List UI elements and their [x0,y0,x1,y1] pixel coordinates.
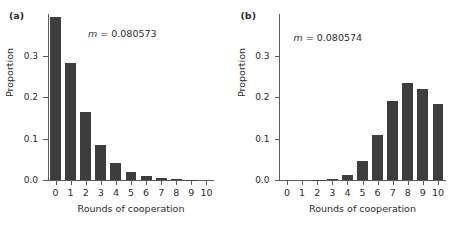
x-tick-label: 1 [299,187,305,198]
y-tick [275,180,280,181]
y-tick-label: 0.3 [24,51,38,61]
panel-a-plot-area: 0.00.10.20.3 012345678910 [48,14,214,180]
y-tick [275,139,280,140]
x-tick [71,180,72,185]
panel-b-xlabel: Rounds of cooperation [280,203,446,214]
bar-6 [372,135,383,180]
x-tick-label: 9 [420,187,426,198]
x-tick-label: 7 [390,187,396,198]
x-tick [131,180,132,185]
x-tick [363,180,364,185]
bar-5 [357,161,368,180]
x-tick [146,180,147,185]
x-tick-label: 0 [53,187,59,198]
x-tick-label: 7 [158,187,164,198]
y-tick-label: 0.1 [255,134,269,144]
panel-a: (a) m = 0.080573 Proportion 0.00.10.20.3… [0,0,232,239]
x-tick-label: 5 [359,187,365,198]
bar-3 [95,145,106,180]
x-tick [191,180,192,185]
x-tick [317,180,318,185]
x-tick-label: 6 [143,187,149,198]
x-tick-label: 3 [98,187,104,198]
panel-a-bars [48,14,214,180]
x-tick-label: 0 [284,187,290,198]
bar-10 [433,104,444,180]
panel-a-xlabel: Rounds of cooperation [48,203,214,214]
panel-b-ylabel: Proportion [236,48,247,97]
y-tick [43,139,48,140]
x-tick [423,180,424,185]
x-tick [393,180,394,185]
x-tick [347,180,348,185]
panel-b-plot-area: 0.00.10.20.3 012345678910 [280,14,446,180]
y-tick-label: 0.3 [255,51,269,61]
y-tick-label: 0.0 [255,175,269,185]
y-tick-label: 0.0 [24,175,38,185]
bar-5 [126,172,137,180]
x-tick-label: 8 [405,187,411,198]
x-tick-label: 8 [173,187,179,198]
bar-8 [402,83,413,180]
x-tick [56,180,57,185]
x-tick [302,180,303,185]
panel-b: (b) m = 0.080574 Proportion 0.00.10.20.3… [232,0,463,239]
panel-a-ylabel: Proportion [4,48,15,97]
panel-b-bars [280,14,446,180]
x-tick-label: 10 [432,187,444,198]
x-tick [161,180,162,185]
x-tick [287,180,288,185]
y-tick-label: 0.2 [255,92,269,102]
y-tick [43,97,48,98]
y-tick-label: 0.2 [24,92,38,102]
x-tick [378,180,379,185]
bar-1 [65,63,76,180]
panel-b-label: (b) [241,10,256,21]
bar-7 [387,101,398,180]
x-tick [332,180,333,185]
x-tick [86,180,87,185]
x-tick-label: 1 [68,187,74,198]
x-tick-label: 2 [314,187,320,198]
x-tick-label: 4 [344,187,350,198]
panel-a-label: (a) [9,10,24,21]
x-tick-label: 6 [375,187,381,198]
y-tick-label: 0.1 [24,134,38,144]
bar-9 [417,89,428,180]
x-tick-label: 4 [113,187,119,198]
x-tick [206,180,207,185]
x-tick-label: 10 [200,187,212,198]
bar-2 [80,112,91,180]
x-tick [176,180,177,185]
x-tick [101,180,102,185]
y-tick [43,180,48,181]
bar-4 [110,163,121,180]
x-tick-label: 5 [128,187,134,198]
bar-0 [50,17,61,180]
x-tick-label: 3 [329,187,335,198]
x-tick [116,180,117,185]
figure: (a) m = 0.080573 Proportion 0.00.10.20.3… [0,0,463,239]
y-tick [275,56,280,57]
x-tick [408,180,409,185]
x-tick [438,180,439,185]
x-tick-label: 9 [188,187,194,198]
y-tick [43,56,48,57]
x-tick-label: 2 [83,187,89,198]
y-tick [275,97,280,98]
